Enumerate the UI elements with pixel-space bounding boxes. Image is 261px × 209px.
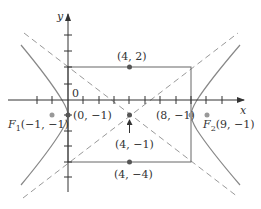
vertex-right-label: (8, −1) xyxy=(156,109,195,122)
focus-right-name: F xyxy=(202,118,211,131)
focus-left-label: F1(−1, −1) xyxy=(7,118,69,133)
vertex-left-point xyxy=(66,113,71,118)
focus-right-label: F2(9, −1) xyxy=(202,118,255,133)
y-axis-label: y xyxy=(56,10,64,23)
focus-left-coords: (−1, −1) xyxy=(21,118,69,131)
x-axis-label: x xyxy=(240,104,247,117)
co-vertex-top-label: (4, 2) xyxy=(117,50,147,63)
hyperbola-diagram: x y 0 (4, 2) (4, −4) (4, −1) (0, −1) xyxy=(0,0,261,209)
focus-left-point xyxy=(50,113,55,118)
center-label: (4, −1) xyxy=(115,138,154,151)
hyperbola-left-branch xyxy=(21,45,68,185)
vertex-left-label: (0, −1) xyxy=(73,109,112,122)
co-vertex-bottom-point xyxy=(127,160,132,165)
hyperbola-right-branch xyxy=(191,45,240,185)
co-vertex-bottom-label: (4, −4) xyxy=(114,168,153,181)
focus-right-coords: (9, −1) xyxy=(216,118,255,131)
focus-left-name: F xyxy=(7,118,16,131)
focus-right-point xyxy=(205,113,210,118)
co-vertex-top-point xyxy=(127,65,132,70)
y-axis: y 0 xyxy=(56,10,79,192)
center-point xyxy=(127,113,132,118)
origin-label: 0 xyxy=(72,87,79,100)
